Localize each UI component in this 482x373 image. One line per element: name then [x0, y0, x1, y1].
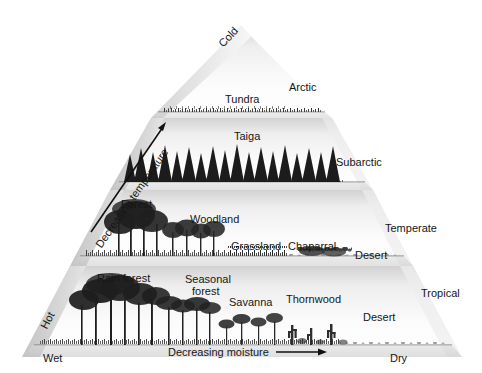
biome-label-rain-forest: Rain forest	[97, 272, 150, 284]
zone-label-tropical: Tropical	[421, 287, 460, 299]
biome-label-grassland: Grassland	[231, 240, 281, 252]
zone-label-temperate: Temperate	[385, 222, 437, 234]
biome-label-savanna: Savanna	[229, 296, 272, 308]
biome-label-thornwood: Thornwood	[286, 293, 341, 305]
biome-label-desert-temperate: Desert	[355, 249, 387, 261]
biome-label-seasonal-forest-line1: Seasonal	[185, 273, 231, 285]
pyramid-illustration	[0, 0, 482, 373]
biome-label-seasonal-forest-line2: forest	[192, 285, 220, 297]
biome-label-chaparral: Chaparral	[288, 240, 336, 252]
biome-label-desert-tropical: Desert	[363, 311, 395, 323]
zone-label-subarctic: Subarctic	[336, 156, 382, 168]
biome-label-woodland: Woodland	[190, 213, 239, 225]
biome-label-tundra: Tundra	[225, 93, 259, 105]
axis-label-dry: Dry	[390, 352, 407, 364]
zone-label-arctic: Arctic	[289, 81, 317, 93]
biome-label-taiga: Taiga	[234, 130, 260, 142]
axis-label-wet: Wet	[43, 352, 62, 364]
figure-canvas: Cold Tundra Arctic Taiga Subarctic Fores…	[0, 0, 482, 373]
tier-tropical	[22, 266, 462, 357]
axis-label-decreasing-moisture: Decreasing moisture	[168, 346, 269, 358]
